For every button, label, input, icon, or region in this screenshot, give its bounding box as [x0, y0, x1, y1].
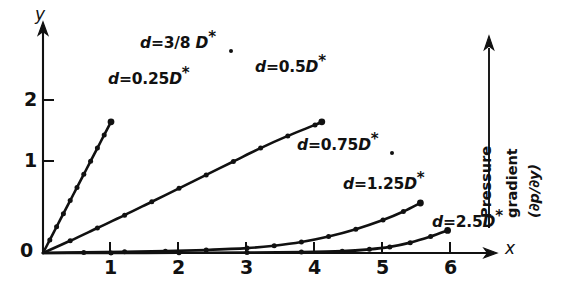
series-data-marker	[387, 244, 392, 249]
series-data-marker	[109, 250, 114, 255]
series-data-marker	[340, 249, 345, 254]
series-data-marker	[88, 159, 93, 164]
curve-label-symbol: D	[404, 175, 417, 193]
curve-label-prefix: d	[432, 213, 443, 231]
series-data-marker	[353, 227, 358, 232]
series-data-marker	[258, 146, 263, 151]
curve-label-value: 0.5	[279, 58, 306, 76]
pressure-gradient-line-3: (∂p/∂y)	[526, 164, 542, 218]
series-data-marker	[177, 250, 182, 255]
curve-label-symbol: D	[306, 58, 319, 76]
curve-label-prefix: d	[108, 70, 119, 88]
series-data-marker	[401, 209, 406, 214]
origin-label: 0	[20, 241, 33, 260]
pressure-gradient-line-2: gradient	[504, 148, 520, 218]
series-data-marker	[299, 250, 304, 255]
x-tick-label-5: 5	[376, 258, 389, 277]
series-data-marker	[381, 218, 386, 223]
series-data-marker	[326, 234, 331, 239]
series-data-marker	[47, 237, 52, 242]
series-line	[43, 122, 322, 253]
curve-label-0p5-d-star: d=0.5D*	[255, 60, 326, 76]
series-data-marker	[367, 247, 372, 252]
curve-label-0p75-d-star: d=0.75D*	[297, 138, 378, 154]
y-axis	[38, 22, 54, 253]
series-endpoint-marker	[417, 200, 424, 207]
curve-label-equals: =	[308, 136, 321, 154]
series-data-marker	[68, 198, 73, 203]
curve-label-equals: =	[354, 175, 367, 193]
curve-label-prefix: d	[343, 175, 354, 193]
curve-label-star: *	[417, 169, 425, 187]
x-tick-label-3: 3	[240, 258, 253, 277]
figure-root: y x 0 1 2 1 2 3 4 5 6 d=3/8 D* d=0.25D* …	[0, 0, 571, 290]
curve-label-prefix: d	[297, 136, 308, 154]
series-data-marker	[54, 224, 59, 229]
y-tick-label-1: 1	[24, 151, 37, 170]
pressure-gradient-line-1: Pressure	[478, 146, 494, 218]
x-tick-label-6: 6	[444, 258, 457, 277]
curve-label-value: 3/8	[164, 34, 191, 52]
series-data-marker	[122, 213, 127, 218]
y-tick-label-2: 2	[24, 90, 37, 109]
series-data-marker	[149, 199, 154, 204]
series-data-marker	[245, 250, 250, 255]
series-data-marker	[231, 159, 236, 164]
curve-label-prefix: d	[140, 34, 151, 52]
pressure-gradient-annotation: Pressure gradient (∂p/∂y)	[466, 28, 566, 228]
series-data-marker	[95, 225, 100, 230]
series-data-marker	[245, 246, 250, 251]
series-data-marker	[75, 185, 80, 190]
curve-label-equals: =	[266, 58, 279, 76]
curve-label-value: 0.25	[132, 70, 169, 88]
curve-label-value: 1.25	[367, 175, 404, 193]
x-tick-label-4: 4	[308, 258, 321, 277]
curve-label-equals: =	[443, 213, 456, 231]
curve-label-equals: =	[151, 34, 164, 52]
curve-label-symbol: D	[196, 34, 209, 52]
curve-label-star: *	[371, 130, 379, 148]
series-endpoint-marker	[108, 118, 115, 125]
series-data-marker	[102, 132, 107, 137]
series-data-marker	[313, 122, 318, 127]
series-data-marker	[285, 133, 290, 138]
curve-label-prefix: d	[255, 58, 266, 76]
series-data-marker	[272, 243, 277, 248]
series-data-marker	[68, 238, 73, 243]
curve-label-symbol: D	[358, 136, 371, 154]
y-axis-label: y	[35, 6, 45, 23]
series-data-marker	[81, 172, 86, 177]
curve-label-star: *	[182, 64, 190, 82]
series-data-marker	[177, 186, 182, 191]
curve-label-3-over-8-d-star: d=3/8 D*	[140, 36, 216, 52]
data-series-1	[43, 118, 114, 253]
series-endpoint-marker	[318, 118, 325, 125]
curve-label-symbol: D	[169, 70, 182, 88]
x-axis-label: x	[505, 240, 515, 257]
series-data-marker	[95, 146, 100, 151]
series-data-marker	[61, 211, 66, 216]
x-tick-label-2: 2	[172, 258, 185, 277]
data-series-3	[43, 118, 325, 253]
x-tick-label-1: 1	[104, 258, 117, 277]
curve-label-0p25-d-star: d=0.25D*	[108, 72, 189, 88]
series-data-marker	[204, 172, 209, 177]
series-data-marker	[408, 240, 413, 245]
curve-label-star: *	[318, 52, 326, 70]
curve-label-value: 0.75	[321, 136, 358, 154]
curve-label-star: *	[208, 28, 216, 46]
series-data-marker	[299, 240, 304, 245]
curve-label-1p25-d-star: d=1.25D*	[343, 177, 424, 193]
curve-label-equals: =	[119, 70, 132, 88]
series-data-marker	[428, 234, 433, 239]
